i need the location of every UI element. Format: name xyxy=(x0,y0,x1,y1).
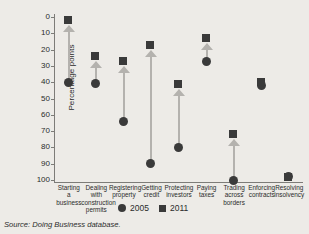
marker-2011 xyxy=(284,173,292,181)
category-label-line: across xyxy=(219,191,249,198)
legend-item-2005: 2005 xyxy=(118,203,149,213)
y-tick-label: 70 xyxy=(26,127,50,135)
x-axis-category-label: Enforcingcontracts xyxy=(247,184,277,199)
legend-circle-icon xyxy=(118,204,126,212)
category-label-line: business xyxy=(54,199,84,206)
data-column xyxy=(221,17,247,180)
marker-2005 xyxy=(146,159,155,168)
x-axis-category-labels: StartingabusinessDealingwithconstruction… xyxy=(55,184,303,220)
marker-2011 xyxy=(64,16,72,24)
source-note: Source: Doing Business database. xyxy=(4,220,121,229)
marker-2011 xyxy=(202,34,210,42)
x-axis-category-label: Gettingcredit xyxy=(136,184,166,199)
x-axis-category-label: Resolvinginsolvency xyxy=(274,184,304,199)
change-arrow-head xyxy=(201,43,213,50)
data-column xyxy=(194,17,220,180)
marker-2005 xyxy=(174,143,183,152)
y-tick-mark xyxy=(51,180,55,181)
y-tick-label: 90 xyxy=(26,160,50,168)
data-series-container xyxy=(55,17,303,180)
category-label-line: insolvency xyxy=(274,191,304,198)
x-axis-line xyxy=(54,182,303,183)
change-arrow-head xyxy=(228,139,240,146)
data-column xyxy=(249,17,275,180)
marker-2011 xyxy=(119,57,127,65)
y-tick-label: 0 xyxy=(26,13,50,21)
data-column xyxy=(56,17,82,180)
category-label-line: Resolving xyxy=(274,184,304,191)
change-arrow-shaft xyxy=(150,56,152,164)
x-axis-category-label: Protectinginvestors xyxy=(164,184,194,199)
x-axis-category-label: Payingtaxes xyxy=(192,184,222,199)
chart-figure: Percentage points 0102030405060708090100… xyxy=(0,0,309,234)
legend-item-2011: 2011 xyxy=(159,203,188,213)
x-axis-category-label: Startingabusiness xyxy=(54,184,84,206)
marker-2011 xyxy=(174,80,182,88)
category-label-line: Starting xyxy=(54,184,84,191)
category-label-line: with xyxy=(81,191,111,198)
x-axis-category-label: Registeringproperty xyxy=(109,184,139,199)
y-tick-label: 10 xyxy=(26,29,50,37)
category-label-line: taxes xyxy=(192,191,222,198)
category-label-line: Registering xyxy=(109,184,139,191)
legend-label: 2011 xyxy=(170,203,188,213)
data-column xyxy=(276,17,302,180)
y-tick-label: 100 xyxy=(26,176,50,184)
marker-2011 xyxy=(229,130,237,138)
category-label-line: construction xyxy=(81,199,111,206)
category-label-line: permits xyxy=(81,206,111,213)
x-axis-category-label: Dealingwithconstructionpermits xyxy=(81,184,111,214)
x-axis-category-label: Tradingacrossborders xyxy=(219,184,249,206)
data-column xyxy=(111,17,137,180)
category-label-line: borders xyxy=(219,199,249,206)
legend-label: 2005 xyxy=(130,203,149,213)
category-label-line: credit xyxy=(136,191,166,198)
y-tick-label: 40 xyxy=(26,78,50,86)
category-label-line: Enforcing xyxy=(247,184,277,191)
marker-2005 xyxy=(202,57,211,66)
change-arrow-shaft xyxy=(123,72,125,121)
y-tick-label: 60 xyxy=(26,111,50,119)
marker-2011 xyxy=(257,78,265,86)
change-arrow-shaft xyxy=(68,31,70,82)
category-label-line: Protecting xyxy=(164,184,194,191)
marker-2011 xyxy=(91,52,99,60)
category-label-line: contracts xyxy=(247,191,277,198)
category-label-line: Dealing xyxy=(81,184,111,191)
category-label-line: a xyxy=(54,191,84,198)
source-prefix: Source: xyxy=(4,220,32,229)
category-label-line: Trading xyxy=(219,184,249,191)
category-label-line: property xyxy=(109,191,139,198)
chart-legend: 20052011 xyxy=(118,203,188,213)
marker-2005 xyxy=(119,117,128,126)
change-arrow-head xyxy=(63,25,75,32)
legend-square-icon xyxy=(159,205,166,212)
change-arrow-head xyxy=(173,89,185,96)
source-work-title: Doing Business xyxy=(32,220,85,229)
data-column xyxy=(83,17,109,180)
change-arrow-head xyxy=(118,66,130,73)
marker-2011 xyxy=(146,41,154,49)
change-arrow-shaft xyxy=(178,95,180,148)
change-arrow-shaft xyxy=(233,145,235,180)
category-label-line: investors xyxy=(164,191,194,198)
data-column xyxy=(138,17,164,180)
marker-2005 xyxy=(64,78,73,87)
category-label-line: Getting xyxy=(136,184,166,191)
y-tick-label: 20 xyxy=(26,46,50,54)
source-suffix: database. xyxy=(85,220,120,229)
data-column xyxy=(166,17,192,180)
category-label-line: Paying xyxy=(192,184,222,191)
change-arrow-head xyxy=(145,50,157,57)
y-tick-label: 80 xyxy=(26,143,50,151)
marker-2005 xyxy=(91,79,100,88)
change-arrow-head xyxy=(90,61,102,68)
y-tick-label: 50 xyxy=(26,95,50,103)
y-tick-label: 30 xyxy=(26,62,50,70)
